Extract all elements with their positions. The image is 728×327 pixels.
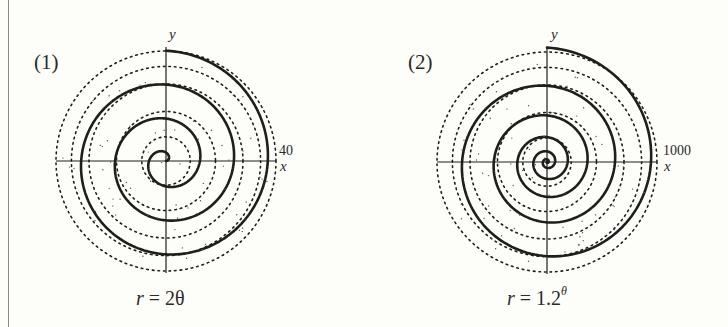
speckle-dot	[582, 232, 583, 233]
speckle-dot	[579, 236, 580, 237]
panel-2-y-axis-label: y	[551, 26, 558, 43]
speckle-dot	[250, 138, 251, 139]
speckle-dot	[110, 101, 111, 102]
speckle-dot	[242, 96, 243, 97]
panel-1-x-axis-label: x	[280, 158, 287, 175]
caption-sup: θ	[561, 284, 567, 298]
caption-lhs: r	[136, 287, 144, 309]
speckle-dot	[485, 107, 486, 108]
speckle-dot	[119, 199, 120, 200]
panel-1-radius-tick-label: 40	[279, 143, 293, 159]
speckle-dot	[581, 94, 582, 95]
speckle-dot	[125, 91, 126, 92]
speckle-dot	[461, 149, 462, 150]
panel-2-radius-tick-label: 1000	[663, 143, 691, 159]
speckle-dot	[506, 108, 507, 109]
speckle-dot	[112, 198, 113, 199]
speckle-dot	[537, 64, 538, 65]
speckle-dot	[510, 210, 511, 211]
speckle-dot	[196, 213, 197, 214]
speckle-dot	[623, 166, 624, 167]
speckle-dot	[544, 157, 545, 158]
speckle-dot	[463, 140, 464, 141]
speckle-dot	[478, 153, 479, 154]
panel-2-x-axis-label: x	[664, 158, 671, 175]
speckle-dot	[93, 100, 94, 101]
speckle-dot	[583, 75, 584, 76]
speckle-dot	[473, 108, 474, 109]
speckle-dot	[174, 129, 175, 130]
caption-eq: =	[515, 287, 536, 309]
speckle-dot	[495, 158, 496, 159]
speckle-dot	[617, 165, 618, 166]
speckle-dot	[130, 188, 131, 189]
speckle-dot	[488, 205, 489, 206]
speckle-dot	[601, 144, 602, 145]
speckle-dot	[612, 205, 613, 206]
speckle-dot	[236, 214, 237, 215]
speckle-dot	[242, 231, 243, 232]
speckle-dot	[502, 94, 503, 95]
speckle-dot	[501, 235, 502, 236]
speckle-dot	[233, 95, 234, 96]
speckle-dot	[575, 77, 576, 78]
speckle-dot	[614, 206, 615, 207]
speckle-dot	[565, 193, 566, 194]
speckle-dot	[199, 155, 200, 156]
speckle-dot	[179, 163, 180, 164]
caption-rhs: 2θ	[165, 287, 185, 309]
speckle-dot	[164, 130, 165, 131]
speckle-dot	[139, 84, 140, 85]
speckle-dot	[514, 228, 515, 229]
speckle-dot	[119, 90, 120, 91]
speckle-dot	[62, 157, 63, 158]
speckle-dot	[643, 192, 644, 193]
caption-eq: =	[144, 287, 165, 309]
speckle-dot	[200, 200, 201, 201]
speckle-dot	[461, 204, 462, 205]
speckle-dot	[579, 214, 580, 215]
speckle-dot	[529, 149, 530, 150]
speckle-dot	[175, 204, 176, 205]
speckle-dot	[112, 205, 113, 206]
speckle-dot	[632, 188, 633, 189]
speckle-dot	[490, 237, 491, 238]
speckle-dot	[566, 86, 567, 87]
speckle-dot	[242, 150, 243, 151]
panel-1-tag: (1)	[34, 50, 59, 75]
speckle-dot	[73, 168, 74, 169]
speckle-dot	[532, 177, 533, 178]
speckle-dot	[186, 258, 187, 259]
speckle-dot	[187, 207, 188, 208]
speckle-dot	[452, 149, 453, 150]
speckle-dot	[576, 115, 577, 116]
speckle-dot	[193, 121, 194, 122]
speckle-dot	[129, 126, 130, 127]
speckle-dot	[595, 214, 596, 215]
panel-2-tag: (2)	[408, 50, 433, 75]
speckle-dot	[564, 251, 565, 252]
speckle-dot	[108, 95, 109, 96]
speckle-dot	[511, 137, 512, 138]
speckle-dot	[150, 181, 151, 182]
speckle-dot	[94, 220, 95, 221]
speckle-dot	[266, 181, 267, 182]
spiral-plots-canvas	[0, 0, 728, 327]
speckle-dot	[456, 134, 457, 135]
speckle-dot	[528, 261, 529, 262]
speckle-dot	[614, 229, 615, 230]
speckle-dot	[519, 214, 520, 215]
speckle-dot	[535, 164, 536, 165]
speckle-dot	[87, 213, 88, 214]
speckle-dot	[513, 185, 514, 186]
spiral-curve	[462, 48, 651, 257]
speckle-dot	[221, 145, 222, 146]
speckle-dot	[595, 136, 596, 137]
speckle-dot	[483, 218, 484, 219]
speckle-dot	[155, 132, 156, 133]
speckle-dot	[242, 228, 243, 229]
speckle-dot	[148, 173, 149, 174]
panel-2-plot	[437, 48, 657, 274]
speckle-dot	[211, 130, 212, 131]
speckle-dot	[462, 166, 463, 167]
